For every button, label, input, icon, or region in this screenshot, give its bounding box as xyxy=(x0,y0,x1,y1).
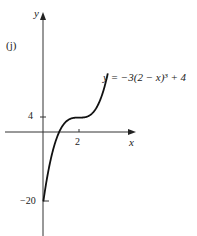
x-axis-label: x xyxy=(129,136,134,148)
y-axis-arrow-icon xyxy=(40,12,46,20)
y-axis-label: y xyxy=(34,7,39,19)
tick-label-y-neg20: −20 xyxy=(20,195,36,206)
x-axis-arrow-icon xyxy=(128,129,136,135)
panel-label: (j) xyxy=(6,39,16,51)
tick-label-y-4: 4 xyxy=(28,110,33,121)
tick-label-x-2: 2 xyxy=(75,136,80,147)
equation-annotation: y = −3(2 − x)³ + 4 xyxy=(103,71,186,83)
